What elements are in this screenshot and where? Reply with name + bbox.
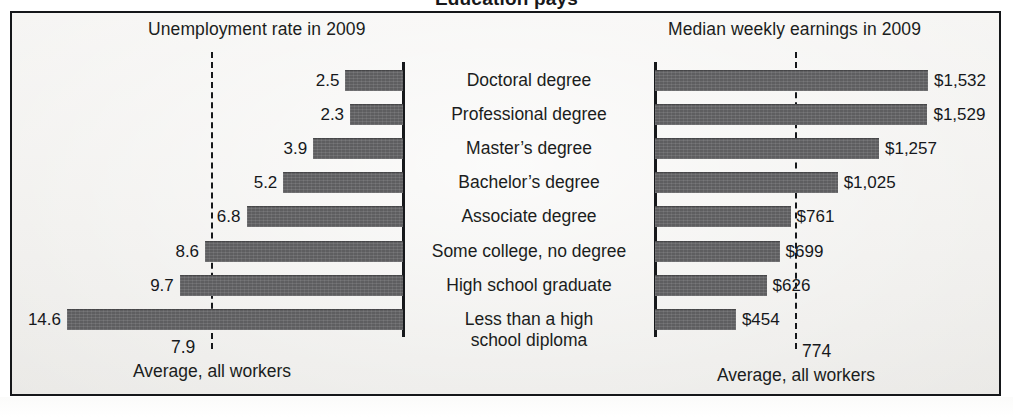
category-label-line1: Less than a high bbox=[465, 309, 593, 329]
category-label: Professional degree bbox=[408, 104, 650, 125]
unemployment-bar-value: 3.9 bbox=[203, 138, 307, 159]
unemployment-bar bbox=[313, 138, 403, 159]
unemployment-bar bbox=[180, 275, 403, 296]
earnings-bar bbox=[655, 241, 780, 262]
category-label: High school graduate bbox=[408, 275, 650, 296]
earnings-bar bbox=[655, 172, 838, 193]
category-label: Doctoral degree bbox=[408, 70, 650, 91]
category-label-line1: Some college, no degree bbox=[432, 241, 627, 261]
unemployment-bar-value: 2.3 bbox=[240, 104, 344, 125]
unemployment-bar-value: 2.5 bbox=[235, 70, 339, 91]
category-label: Less than a highschool diploma bbox=[408, 309, 650, 351]
earnings-bar-value: $699 bbox=[786, 241, 824, 262]
earnings-bar-value: $1,257 bbox=[885, 138, 937, 159]
category-label: Some college, no degree bbox=[408, 241, 650, 262]
earnings-bar bbox=[655, 309, 736, 330]
category-label-line1: High school graduate bbox=[446, 275, 611, 295]
left-average-caption: Average, all workers bbox=[92, 361, 332, 382]
left-average-reference-line bbox=[211, 52, 213, 349]
earnings-bar-value: $1,025 bbox=[844, 172, 896, 193]
unemployment-bar bbox=[345, 70, 403, 91]
earnings-bar bbox=[655, 104, 927, 125]
category-label-line2: school diploma bbox=[408, 330, 650, 351]
earnings-bar-value: $1,529 bbox=[933, 104, 985, 125]
unemployment-bar-value: 5.2 bbox=[173, 172, 277, 193]
unemployment-bar bbox=[247, 206, 403, 227]
left-panel-title: Unemployment rate in 2009 bbox=[148, 19, 365, 40]
cut-off-headline-text: Education pays bbox=[0, 0, 1013, 8]
category-label-line1: Master’s degree bbox=[466, 138, 592, 158]
unemployment-bar-value: 6.8 bbox=[137, 206, 241, 227]
earnings-bar-value: $454 bbox=[742, 309, 780, 330]
earnings-bar-value: $626 bbox=[773, 275, 811, 296]
category-label-line1: Associate degree bbox=[461, 206, 596, 226]
category-label: Bachelor’s degree bbox=[408, 172, 650, 193]
right-average-reference-line bbox=[795, 52, 797, 349]
earnings-bar bbox=[655, 206, 791, 227]
earnings-bar bbox=[655, 70, 928, 91]
right-panel-title: Median weekly earnings in 2009 bbox=[668, 19, 921, 40]
earnings-bar-value: $761 bbox=[797, 206, 835, 227]
category-label-line1: Professional degree bbox=[451, 104, 607, 124]
unemployment-bar bbox=[283, 172, 403, 193]
earnings-bar-value: $1,532 bbox=[934, 70, 986, 91]
unemployment-bar-value: 9.7 bbox=[70, 275, 174, 296]
cut-off-headline: Education pays bbox=[0, 0, 1013, 9]
unemployment-bar-value: 8.6 bbox=[95, 241, 199, 262]
unemployment-bar-value: 14.6 bbox=[0, 309, 61, 330]
earnings-bar bbox=[655, 275, 767, 296]
category-label: Associate degree bbox=[408, 206, 650, 227]
right-average-caption: Average, all workers bbox=[676, 365, 916, 386]
right-average-value: 774 bbox=[802, 341, 831, 362]
page-margin bbox=[0, 397, 1013, 417]
category-label-line1: Bachelor’s degree bbox=[458, 172, 599, 192]
unemployment-bar bbox=[67, 309, 403, 330]
chart-page: Education pays Unemployment rate in 2009… bbox=[0, 0, 1013, 417]
unemployment-bar bbox=[350, 104, 403, 125]
earnings-bar bbox=[655, 138, 879, 159]
category-label: Master’s degree bbox=[408, 138, 650, 159]
unemployment-bar bbox=[205, 241, 403, 262]
category-label-line1: Doctoral degree bbox=[467, 70, 592, 90]
left-average-value: 7.9 bbox=[171, 337, 195, 358]
